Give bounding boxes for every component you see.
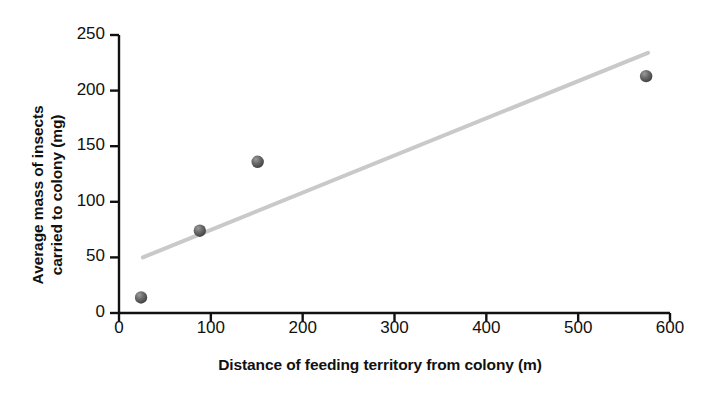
x-tick-label-text: 300 <box>380 318 408 338</box>
x-tick-label-text: 400 <box>472 318 500 338</box>
y-tick-label-text: 0 <box>96 302 105 322</box>
y-tick-label-text: 250 <box>77 24 105 44</box>
data-point <box>640 70 652 82</box>
data-point <box>194 225 206 237</box>
data-point <box>135 291 147 303</box>
plot-area <box>0 0 701 397</box>
data-point-markers <box>135 70 652 304</box>
y-tick-label-text: 150 <box>77 135 105 155</box>
x-tick-label-text: 600 <box>656 318 684 338</box>
x-tick-label-text: 500 <box>564 318 592 338</box>
data-point <box>251 156 263 168</box>
y-tick-label-text: 50 <box>86 246 105 266</box>
x-tick-label-text: 100 <box>197 318 225 338</box>
y-tick-label-text: 200 <box>77 80 105 100</box>
chart-figure: Average mass of insects carried to colon… <box>0 0 701 397</box>
x-tick-label-text: 200 <box>288 318 316 338</box>
x-tick-label-text: 0 <box>114 318 123 338</box>
trendline <box>143 53 648 258</box>
y-axis-ticks <box>110 35 119 313</box>
y-tick-label-text: 100 <box>77 191 105 211</box>
